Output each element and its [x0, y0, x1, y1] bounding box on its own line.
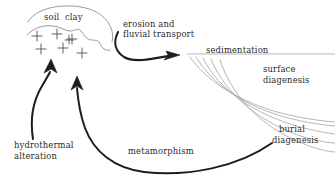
land-dome-group: [27, 6, 113, 51]
pluton-plus-symbols-group: [32, 29, 87, 58]
plus-symbol: [32, 31, 42, 41]
dome-outline-path: [28, 6, 113, 42]
plus-symbol: [65, 35, 74, 44]
plus-symbol: [52, 29, 62, 39]
basin-arc-5: [220, 60, 335, 152]
rock-cycle-diagram: soil clay erosion and fluvial transport …: [0, 0, 335, 180]
hydrothermal-arrow-group: [32, 59, 57, 139]
plus-symbol: [67, 34, 77, 44]
basin-arc-3: [203, 58, 335, 134]
plus-symbol: [77, 48, 87, 58]
metamorphism-arrow-group: [71, 76, 272, 173]
plus-symbol: [58, 43, 68, 53]
diagram-canvas: [0, 0, 335, 180]
basin-arc-2: [196, 57, 335, 126]
plus-symbol: [36, 44, 46, 54]
basin-arc-4: [211, 59, 335, 143]
hydrothermal-arrowhead: [44, 59, 57, 73]
dome-right-flank-path: [104, 49, 110, 50]
sedimentary-basin-group: [187, 54, 335, 152]
erosion-arrow-path: [115, 32, 168, 60]
basin-arc-1: [190, 57, 335, 122]
hydrothermal-arrow-path: [32, 72, 50, 139]
soil-bedrock-boundary-path: [27, 26, 104, 49]
erosion-arrow-group: [115, 32, 180, 60]
